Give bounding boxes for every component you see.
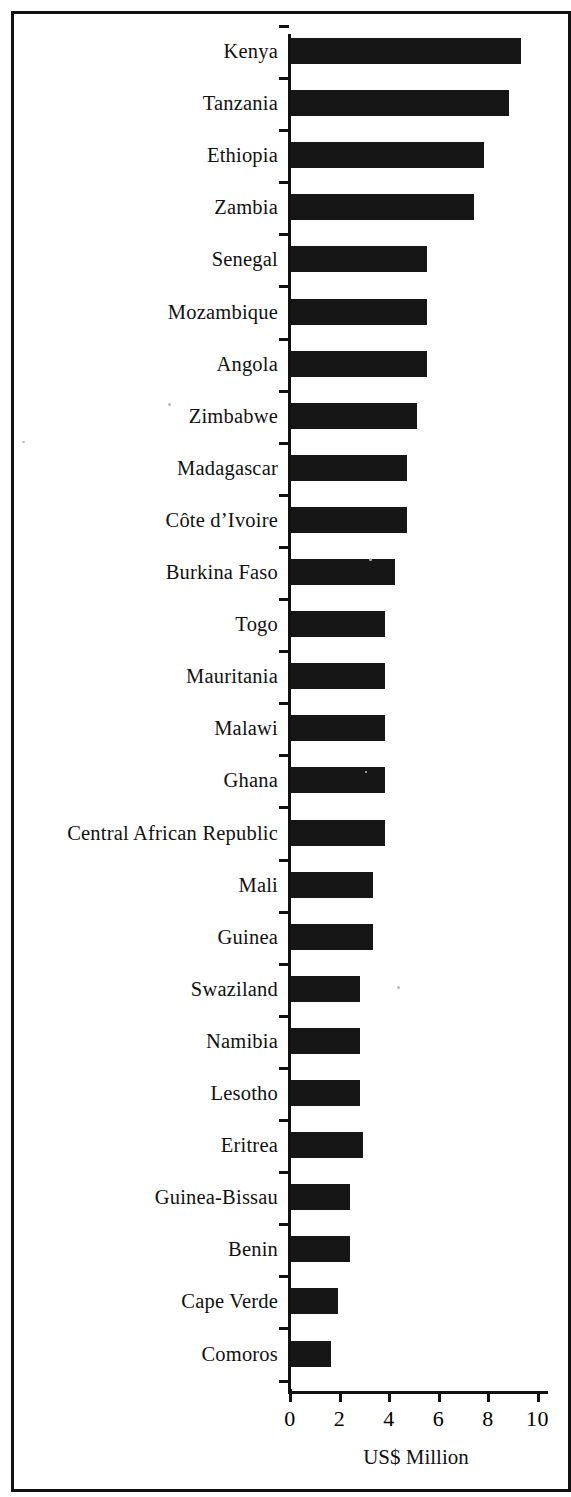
category-tick [279, 702, 289, 705]
scan-speckle [22, 441, 25, 443]
category-tick [279, 25, 289, 28]
scan-speckle [369, 558, 372, 561]
category-tick [279, 1119, 289, 1122]
value-tick-label: 2 [320, 1406, 360, 1432]
category-label: Togo [0, 611, 278, 637]
category-label: Lesotho [0, 1080, 278, 1106]
value-tick [388, 1391, 391, 1402]
value-tick [537, 1391, 540, 1402]
category-label: Guinea-Bissau [0, 1184, 278, 1210]
bar [291, 403, 417, 429]
value-tick-label: 4 [369, 1406, 409, 1432]
category-tick [279, 1275, 289, 1278]
category-tick [279, 650, 289, 653]
category-tick [279, 77, 289, 80]
bar [291, 194, 474, 220]
category-baseline [288, 1391, 548, 1394]
category-label: Guinea [0, 924, 278, 950]
bar [291, 1028, 360, 1054]
scan-speckle [168, 403, 171, 406]
bar [291, 1184, 350, 1210]
value-tick [438, 1391, 441, 1402]
value-tick-label: 10 [518, 1406, 558, 1432]
value-tick [487, 1391, 490, 1402]
bar [291, 611, 385, 637]
category-tick [279, 859, 289, 862]
category-label: Senegal [0, 246, 278, 272]
bar [291, 299, 427, 325]
category-label: Ghana [0, 767, 278, 793]
bar [291, 715, 385, 741]
category-tick [279, 1223, 289, 1226]
bar [291, 142, 484, 168]
category-tick [279, 129, 289, 132]
bar [291, 663, 385, 689]
category-label: Kenya [0, 38, 278, 64]
category-tick [279, 1067, 289, 1070]
bar [291, 38, 521, 64]
bar [291, 1288, 338, 1314]
scan-speckle [397, 986, 400, 989]
category-label: Mauritania [0, 663, 278, 689]
category-label: Namibia [0, 1028, 278, 1054]
category-tick [279, 233, 289, 236]
bar [291, 767, 385, 793]
bar [291, 559, 395, 585]
category-label: Comoros [0, 1341, 278, 1367]
category-label: Angola [0, 351, 278, 377]
category-tick [279, 1327, 289, 1330]
value-tick-label: 0 [270, 1406, 310, 1432]
value-tick-label: 8 [468, 1406, 508, 1432]
bar [291, 351, 427, 377]
category-tick [279, 442, 289, 445]
category-tick [279, 1015, 289, 1018]
bar [291, 455, 407, 481]
category-tick [279, 494, 289, 497]
bar [291, 246, 427, 272]
value-tick [339, 1391, 342, 1402]
category-label: Cape Verde [0, 1288, 278, 1314]
category-tick [279, 598, 289, 601]
category-label: Zambia [0, 194, 278, 220]
bar [291, 820, 385, 846]
category-tick [279, 1380, 289, 1383]
bar [291, 1080, 360, 1106]
bar [291, 507, 407, 533]
category-label: Côte d’Ivoire [0, 507, 278, 533]
category-tick [279, 546, 289, 549]
x-axis-title: US$ Million [288, 1444, 544, 1470]
category-label: Benin [0, 1236, 278, 1262]
category-label: Tanzania [0, 90, 278, 116]
category-label: Swaziland [0, 976, 278, 1002]
value-tick-label: 6 [419, 1406, 459, 1432]
bar [291, 90, 509, 116]
category-label: Malawi [0, 715, 278, 741]
category-label: Madagascar [0, 455, 278, 481]
category-label: Mozambique [0, 299, 278, 325]
category-tick [279, 963, 289, 966]
category-tick [279, 911, 289, 914]
category-label: Zimbabwe [0, 403, 278, 429]
bar [291, 1132, 363, 1158]
category-label: Burkina Faso [0, 559, 278, 585]
bar [291, 872, 373, 898]
category-tick [279, 390, 289, 393]
bar [291, 1236, 350, 1262]
category-tick [279, 285, 289, 288]
scan-speckle [365, 771, 367, 773]
category-label: Ethiopia [0, 142, 278, 168]
bar [291, 924, 373, 950]
category-tick [279, 754, 289, 757]
value-tick [289, 1389, 292, 1402]
category-tick [279, 338, 289, 341]
category-tick [279, 1171, 289, 1174]
category-label: Eritrea [0, 1132, 278, 1158]
category-tick [279, 806, 289, 809]
category-label: Central African Republic [0, 820, 278, 846]
bar [291, 976, 360, 1002]
category-label: Mali [0, 872, 278, 898]
category-tick [279, 181, 289, 184]
bar [291, 1341, 331, 1367]
